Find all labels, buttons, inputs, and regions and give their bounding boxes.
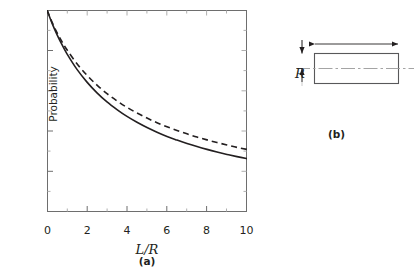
probability-curve-plot xyxy=(47,10,247,212)
xtick-label-8: 8 xyxy=(192,225,222,236)
chart-plot-area: 0 0.2 0.4 0.6 0.8 1.0 0 2 4 6 8 10 Proba… xyxy=(47,10,247,212)
panel-a-chart: 0 0.2 0.4 0.6 0.8 1.0 0 2 4 6 8 10 Proba… xyxy=(0,0,255,273)
xtick-label-10: 10 xyxy=(232,225,262,236)
y-axis-label: Probability xyxy=(47,44,59,144)
xtick-label-4: 4 xyxy=(112,225,142,236)
xtick-label-6: 6 xyxy=(152,225,182,236)
cylinder-cross-section-diagram xyxy=(258,0,415,140)
radius-label-R: R xyxy=(295,66,305,81)
panel-b-caption: (b) xyxy=(258,128,415,140)
panel-a-caption: (a) xyxy=(47,255,247,267)
xtick-label-0: 0 xyxy=(33,225,63,236)
dashed-curve xyxy=(47,10,247,149)
solid-curve xyxy=(47,10,247,159)
xtick-label-2: 2 xyxy=(72,225,102,236)
plot-frame xyxy=(48,11,247,212)
